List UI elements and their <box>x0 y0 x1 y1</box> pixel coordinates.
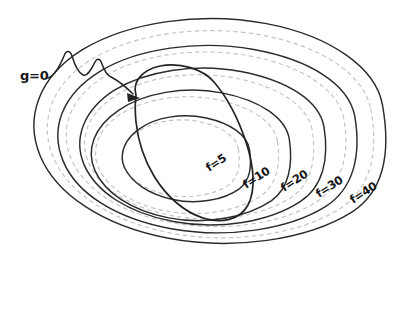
contour-solid-f10 <box>87 83 295 228</box>
constraint-curve-g0 <box>135 65 253 221</box>
contour-plot-figure: g=0 f=5 f=10 f=20 f=30 f=40 <box>0 0 410 312</box>
contour-label-f20: f=20 <box>278 167 311 195</box>
contour-group-f5 <box>120 111 254 206</box>
contour-dashed-f40 <box>41 19 380 250</box>
contour-label-f10: f=10 <box>240 164 273 192</box>
contour-label-f5: f=5 <box>203 151 229 175</box>
contour-group-f10 <box>87 83 295 228</box>
contour-label-f30: f=30 <box>313 173 346 201</box>
contour-plot-canvas: g=0 f=5 f=10 f=20 f=30 f=40 <box>0 0 410 312</box>
contour-solid-f5 <box>120 111 254 206</box>
constraint-curve-group <box>135 65 253 221</box>
constraint-label-g0: g=0 <box>20 68 49 83</box>
contour-group-f20 <box>75 59 331 234</box>
contour-solid-f20 <box>75 59 331 234</box>
